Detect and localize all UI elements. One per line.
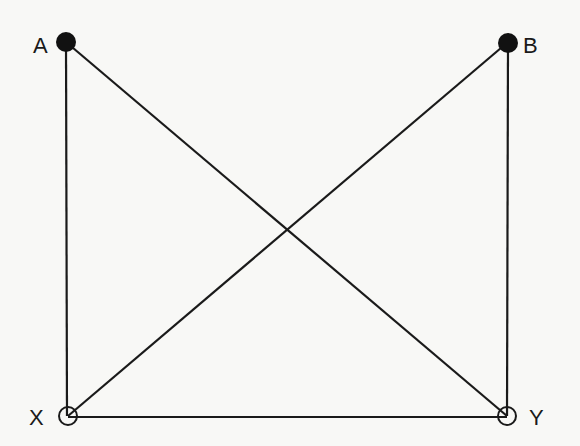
edge-b-y [507,42,508,416]
graph-svg: A B X Y [0,0,580,446]
node-x-label: X [29,405,44,430]
node-a-label: A [33,33,48,58]
diagram-canvas: A B X Y [0,0,580,446]
node-a-dot [56,32,76,52]
node-b-label: B [523,33,538,58]
edge-a-x [66,42,67,416]
node-b-dot [498,33,518,53]
node-y-label: Y [529,405,544,430]
